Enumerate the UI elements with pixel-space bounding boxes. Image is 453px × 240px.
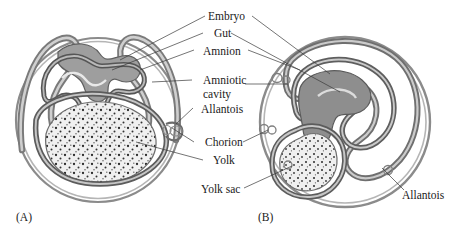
label-amnion: Amnion xyxy=(203,45,241,57)
label-gut: Gut xyxy=(214,27,231,39)
panel-b-yolk-sac xyxy=(272,126,345,197)
label-amniotic: Amniotic xyxy=(203,74,246,86)
label-embryo: Embryo xyxy=(208,10,245,22)
panel-caption-a: (A) xyxy=(16,211,32,223)
label-allantois-center: Allantois xyxy=(201,103,243,115)
label-yolk: Yolk xyxy=(213,154,235,166)
label-cavity: cavity xyxy=(203,88,231,100)
panel-caption-b: (B) xyxy=(258,211,273,223)
label-yolk-sac: Yolk sac xyxy=(201,183,240,195)
figure-canvas: Embryo Gut Amnion Amniotic cavity Allant… xyxy=(0,0,453,240)
label-chorion: Chorion xyxy=(205,136,243,148)
label-allantois-right: Allantois xyxy=(402,189,444,201)
panel-a-group xyxy=(16,37,182,202)
